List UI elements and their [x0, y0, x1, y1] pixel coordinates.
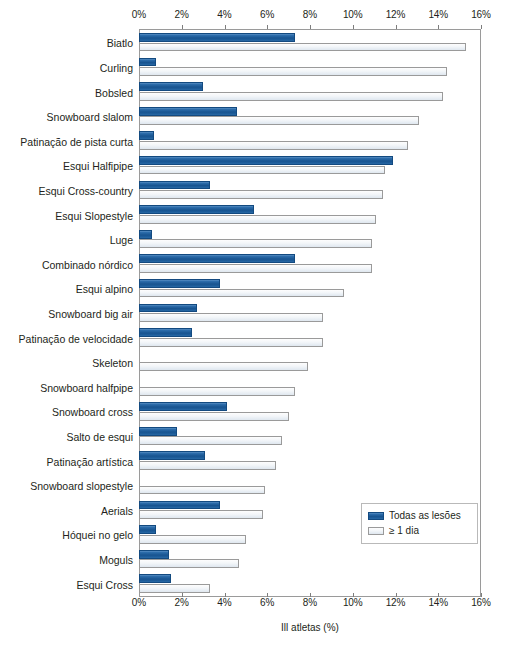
legend-item-all: Todas as lesões	[368, 509, 471, 523]
x-tick-mark-top-5	[353, 25, 354, 29]
bar-all-injuries	[139, 181, 210, 190]
x-tick-label-bottom-1: 2%	[175, 597, 189, 609]
x-tick-label-top-7: 14%	[428, 9, 448, 21]
category-label: Patinação de pista curta	[20, 135, 133, 148]
x-axis-title: Ill atletas (%)	[139, 622, 481, 634]
bar-one-day	[139, 584, 210, 593]
bar-one-day	[139, 264, 372, 273]
bar-all-injuries	[139, 304, 197, 313]
category-label: Snowboard big air	[48, 307, 133, 320]
bar-one-day	[139, 559, 239, 568]
x-tick-label-bottom-7: 14%	[428, 597, 448, 609]
category-label: Salto de esqui	[66, 431, 133, 444]
bar-all-injuries	[139, 501, 220, 510]
x-axis-bottom: 0%2%4%6%8%10%12%14%16%	[0, 597, 510, 613]
x-tick-label-bottom-0: 0%	[132, 597, 146, 609]
bar-row: Snowboard big air	[0, 302, 510, 327]
category-label: Esqui Halfipipe	[63, 160, 133, 173]
category-label: Curling	[100, 61, 133, 74]
x-tick-mark-top-3	[267, 25, 268, 29]
legend-label-one-day: ≥ 1 dia	[389, 525, 419, 537]
bar-row: Patinação de pista curta	[0, 129, 510, 154]
bar-one-day	[139, 313, 323, 322]
category-label: Aerials	[101, 504, 133, 517]
category-label: Luge	[110, 234, 133, 247]
bar-all-injuries	[139, 58, 156, 67]
bar-all-injuries	[139, 574, 171, 583]
bar-one-day	[139, 166, 385, 175]
bar-row: Skeleton	[0, 351, 510, 376]
category-label: Hóquei no gelo	[62, 529, 133, 542]
bar-one-day	[139, 535, 246, 544]
x-tick-label-top-5: 10%	[343, 9, 363, 21]
bar-row: Esqui Cross-country	[0, 179, 510, 204]
x-tick-label-top-1: 2%	[175, 9, 189, 21]
bar-one-day	[139, 239, 372, 248]
bar-row: Curling	[0, 56, 510, 81]
x-tick-label-top-4: 8%	[303, 9, 317, 21]
x-tick-label-bottom-4: 8%	[303, 597, 317, 609]
bar-all-injuries	[139, 254, 295, 263]
category-label: Skeleton	[92, 357, 133, 370]
bar-all-injuries	[139, 279, 220, 288]
category-label: Bobsled	[95, 86, 133, 99]
bar-all-injuries	[139, 33, 295, 42]
legend-item-one-day: ≥ 1 dia	[368, 524, 471, 538]
x-tick-mark-top-7	[438, 25, 439, 29]
bar-all-injuries	[139, 82, 203, 91]
bar-all-injuries	[139, 525, 156, 534]
x-tick-label-bottom-3: 6%	[260, 597, 274, 609]
x-tick-label-top-3: 6%	[260, 9, 274, 21]
bar-row: Patinação de velocidade	[0, 326, 510, 351]
bar-one-day	[139, 338, 323, 347]
chart-legend: Todas as lesões ≥ 1 dia	[361, 503, 478, 544]
bar-row: Patinação artística	[0, 449, 510, 474]
bar-all-injuries	[139, 156, 393, 165]
bar-one-day	[139, 43, 466, 52]
x-tick-label-top-6: 12%	[386, 9, 406, 21]
category-label: Esqui Cross	[76, 578, 133, 591]
bar-row: Combinado nórdico	[0, 252, 510, 277]
x-axis-top: 0%2%4%6%8%10%12%14%16%	[0, 9, 510, 25]
x-tick-mark-top-8	[481, 25, 482, 29]
bar-all-injuries	[139, 328, 192, 337]
bar-all-injuries	[139, 402, 227, 411]
category-label: Snowboard slopestyle	[30, 480, 133, 493]
x-tick-mark-bottom-7	[438, 593, 439, 597]
x-tick-mark-bottom-8	[481, 593, 482, 597]
horizontal-bar-chart: 0%2%4%6%8%10%12%14%16% 0%2%4%6%8%10%12%1…	[0, 0, 510, 646]
category-label: Moguls	[99, 554, 133, 567]
legend-swatch-all-icon	[368, 512, 384, 520]
x-tick-label-bottom-5: 10%	[343, 597, 363, 609]
x-tick-mark-top-6	[396, 25, 397, 29]
bar-all-injuries	[139, 230, 152, 239]
bar-all-injuries	[139, 107, 237, 116]
bar-all-injuries	[139, 550, 169, 559]
category-label: Patinação de velocidade	[19, 332, 133, 345]
bar-one-day	[139, 190, 383, 199]
bar-one-day	[139, 412, 289, 421]
bar-one-day	[139, 141, 408, 150]
legend-label-all: Todas as lesões	[389, 510, 461, 522]
bar-row: Snowboard slopestyle	[0, 474, 510, 499]
bar-one-day	[139, 362, 308, 371]
x-tick-mark-bottom-4	[310, 593, 311, 597]
category-label: Snowboard cross	[52, 406, 133, 419]
x-tick-label-top-8: 16%	[471, 9, 491, 21]
bar-one-day	[139, 510, 263, 519]
bar-one-day	[139, 486, 265, 495]
x-tick-mark-top-1	[182, 25, 183, 29]
bar-row: Salto de esqui	[0, 425, 510, 450]
bar-one-day	[139, 387, 295, 396]
category-label: Esqui alpino	[76, 283, 133, 296]
category-label: Snowboard halfpipe	[40, 381, 133, 394]
bar-row: Esqui alpino	[0, 277, 510, 302]
category-label: Esqui Cross-country	[38, 184, 133, 197]
x-tick-mark-top-4	[310, 25, 311, 29]
x-tick-label-bottom-6: 12%	[386, 597, 406, 609]
category-label: Biatlo	[107, 37, 133, 50]
bar-one-day	[139, 116, 419, 125]
bar-one-day	[139, 436, 282, 445]
x-tick-mark-bottom-2	[225, 593, 226, 597]
legend-swatch-one-day-icon	[368, 527, 384, 535]
